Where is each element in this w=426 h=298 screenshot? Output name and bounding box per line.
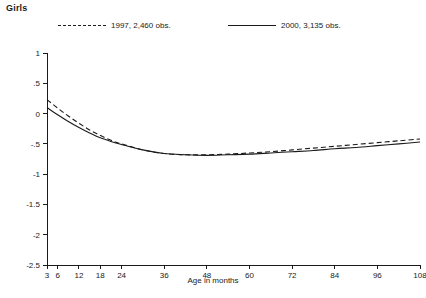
y-tick-label: -.5: [31, 140, 41, 149]
chart-figure: Girls 1997, 2,460 obs. 2000, 3,135 obs. …: [0, 0, 426, 298]
y-axis: 1.50-.5-1-1.5-2-2.5: [26, 49, 47, 270]
series-layer: [47, 100, 420, 156]
plot-area: 1.50-.5-1-1.5-2-2.5 36121824364860728496…: [0, 0, 426, 298]
y-tick-label: -2.5: [26, 261, 40, 270]
series-line-2000: [47, 108, 420, 156]
y-tick-label: 1: [36, 49, 41, 58]
y-tick-label: .5: [33, 79, 40, 88]
x-axis-title: Age in months: [0, 276, 426, 285]
y-tick-label: -1.5: [26, 200, 40, 209]
y-tick-label: -2: [33, 231, 41, 240]
y-tick-label: 0: [36, 110, 41, 119]
y-tick-label: -1: [33, 170, 41, 179]
